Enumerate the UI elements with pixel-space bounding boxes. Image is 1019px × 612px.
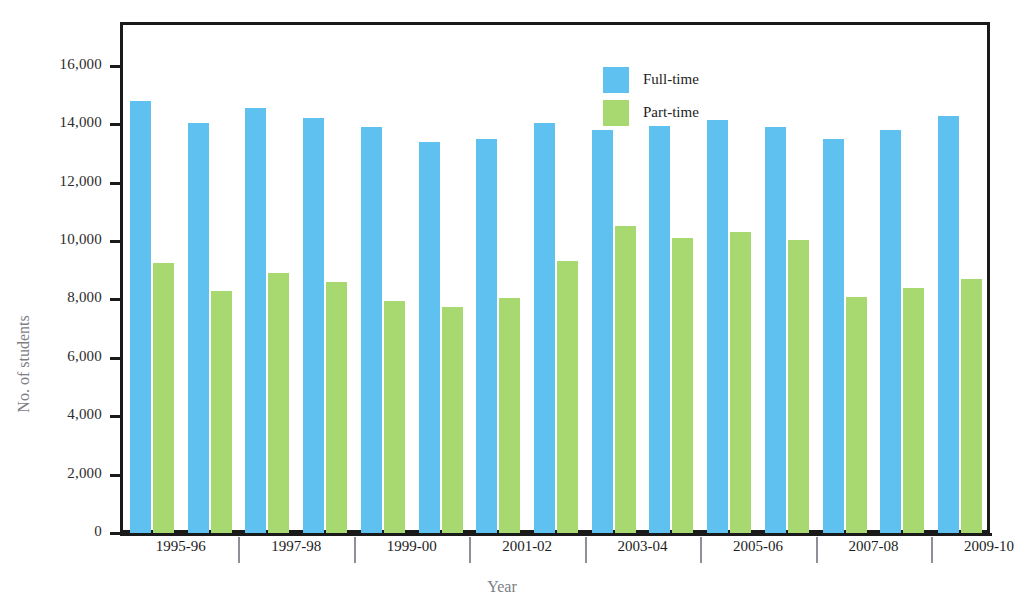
y-tick-label: 14,000 (20, 114, 102, 131)
bar-full-time-2009-10 (938, 116, 959, 533)
bar-part-time-2000-01 (442, 307, 463, 533)
x-tick-label: 2009-10 (929, 538, 1019, 555)
bar-full-time-2004-05 (649, 126, 670, 533)
bar-part-time-2009-10 (961, 279, 982, 533)
bar-full-time-2001-02 (476, 139, 497, 533)
y-tick-label: 2,000 (20, 465, 102, 482)
bar-part-time-2007-08 (846, 297, 867, 533)
y-tick (110, 123, 123, 126)
y-tick (110, 298, 123, 301)
x-axis-title: Year (0, 578, 1004, 596)
legend-swatch-icon (603, 100, 629, 126)
bar-full-time-2005-06 (707, 120, 728, 533)
legend-label: Part-time (643, 104, 699, 121)
y-axis-title: No. of students (15, 294, 33, 434)
bar-full-time-2008-09 (880, 130, 901, 533)
bar-part-time-2002-03 (557, 261, 578, 533)
x-tick-label: 1995-96 (121, 538, 241, 555)
bar-part-time-1995-96 (153, 263, 174, 533)
y-tick-label: 12,000 (20, 173, 102, 190)
bar-full-time-1998-99 (303, 118, 324, 533)
bar-full-time-2007-08 (823, 139, 844, 533)
y-tick (110, 65, 123, 68)
bar-full-time-1997-98 (245, 108, 266, 533)
x-tick-label: 1997-98 (236, 538, 356, 555)
legend-item: Part-time (603, 96, 699, 129)
bar-full-time-2000-01 (419, 142, 440, 533)
y-tick-label: 16,000 (20, 56, 102, 73)
y-tick-label: 0 (20, 523, 102, 540)
bar-part-time-1998-99 (326, 282, 347, 533)
y-tick (110, 182, 123, 185)
y-tick-label: 10,000 (20, 231, 102, 248)
bar-part-time-2005-06 (730, 232, 751, 533)
bar-part-time-2001-02 (499, 298, 520, 533)
bar-full-time-1995-96 (130, 101, 151, 533)
bar-full-time-1996-97 (188, 123, 209, 533)
bar-part-time-1999-00 (384, 301, 405, 533)
y-axis-line (120, 22, 123, 536)
bars-layer (123, 25, 989, 533)
y-tick (110, 415, 123, 418)
legend-item: Full-time (603, 63, 699, 96)
bar-full-time-2002-03 (534, 123, 555, 533)
bar-full-time-1999-00 (361, 127, 382, 533)
bar-full-time-2006-07 (765, 127, 786, 533)
x-tick-label: 2001-02 (467, 538, 587, 555)
x-axis-line (120, 533, 992, 536)
y-tick (110, 474, 123, 477)
y-tick (110, 357, 123, 360)
y-tick (110, 240, 123, 243)
bar-part-time-2006-07 (788, 240, 809, 533)
bar-part-time-1996-97 (211, 291, 232, 533)
x-tick-label: 2005-06 (698, 538, 818, 555)
bar-part-time-1997-98 (268, 273, 289, 533)
x-tick-label: 2003-04 (583, 538, 703, 555)
x-tick-label: 1999-00 (352, 538, 472, 555)
legend-label: Full-time (643, 71, 699, 88)
bar-part-time-2003-04 (615, 226, 636, 533)
bar-part-time-2008-09 (903, 288, 924, 533)
bar-part-time-2004-05 (672, 238, 693, 533)
legend-swatch-icon (603, 67, 629, 93)
bar-full-time-2003-04 (592, 130, 613, 533)
chart-legend: Full-timePart-time (603, 63, 699, 129)
x-tick-label: 2007-08 (814, 538, 934, 555)
